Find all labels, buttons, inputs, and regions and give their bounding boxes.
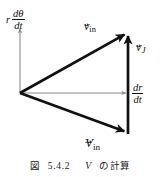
vector-arrow-overbar-icon: [136, 38, 140, 43]
fraction-dr-dt: drdt: [132, 82, 143, 106]
fraction-dtheta-dt: dθdt: [12, 8, 24, 32]
caption-label: 図: [30, 161, 40, 171]
caption-number: 5.4.2: [48, 161, 71, 171]
fraction-numerator: dθ: [12, 8, 24, 20]
vector-V-in-lower: [20, 93, 124, 131]
figure-caption: 図5.4.2Vの計算: [0, 158, 161, 172]
fraction-denominator: dt: [12, 20, 24, 31]
label-V-in-lower: Vin: [85, 133, 100, 149]
label-v-in-upper: vin: [84, 17, 96, 32]
vector-notation-V-in: V: [85, 133, 93, 149]
label-r-dtheta-dt: rdθdt: [6, 8, 25, 32]
figure-container: rdθdt vin vJ drdt Vin 図5.4.2Vの計算: [0, 0, 161, 177]
label-v-j-subscript: J: [141, 45, 145, 55]
caption-variable: V: [84, 161, 92, 171]
fraction-denominator: dt: [132, 94, 143, 105]
label-v-j: vJ: [136, 38, 146, 53]
label-dr-dt: drdt: [132, 82, 143, 106]
vector-v-in-upper: [20, 35, 124, 93]
vector-arrow-overbar-icon: [84, 17, 88, 22]
label-V-subscript: in: [93, 142, 100, 152]
label-v-subscript: in: [89, 25, 96, 34]
caption-text: の計算: [99, 161, 130, 171]
vector-arrow-overbar-icon: [85, 133, 92, 138]
fraction-numerator: dr: [132, 82, 143, 94]
